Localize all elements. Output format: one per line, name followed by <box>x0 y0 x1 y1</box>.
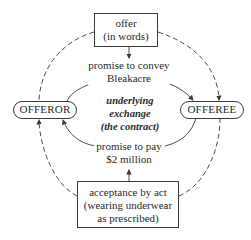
promise-pay-label: promise to pay $2 million <box>94 140 164 166</box>
promise-pay-line: $2 million <box>94 153 164 166</box>
center-line: underlying <box>98 94 162 107</box>
offeror-node: OFFEROR <box>13 101 77 119</box>
dashed-arc-acceptance-to-offeree <box>179 119 220 196</box>
center-line: exchange <box>98 107 162 120</box>
offer-box: offer (in words) <box>94 13 158 47</box>
promise-pay-line: promise to pay <box>94 140 164 153</box>
offeror-label: OFFEROR <box>20 103 71 115</box>
underlying-exchange-label: underlying exchange (the contract) <box>98 94 162 133</box>
dashed-arc-acceptance-to-offeror <box>39 120 77 196</box>
offeree-node: OFFEREE <box>180 101 244 119</box>
promise-convey-label: promise to convey Bleakacre <box>88 59 170 85</box>
acceptance-box-line: acceptance by act <box>78 186 178 199</box>
offeree-label: OFFEREE <box>187 103 236 115</box>
arrow-promise-pay-right <box>165 118 196 146</box>
offer-box-line: offer <box>95 17 157 30</box>
center-line: (the contract) <box>98 120 162 133</box>
promise-convey-line: promise to convey <box>88 59 170 72</box>
promise-convey-line: Bleakacre <box>107 72 151 85</box>
offer-box-line: (in words) <box>95 30 157 43</box>
dashed-arc-offer-to-offeror <box>39 32 94 101</box>
arrow-promise-pay-to-offeror <box>63 120 96 146</box>
acceptance-box: acceptance by act (wearing underwear as … <box>77 181 179 228</box>
acceptance-box-line: (wearing underwear <box>78 199 178 212</box>
acceptance-box-line: as prescribed) <box>78 212 178 225</box>
